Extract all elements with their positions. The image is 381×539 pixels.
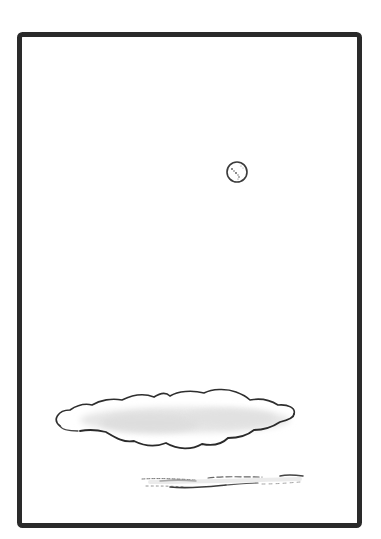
artwork-canvas: Minimalist ink drawing of a moon over a … [0, 0, 381, 539]
picture-frame [20, 35, 360, 526]
cloud-shape [56, 389, 294, 448]
artwork-svg [0, 0, 381, 539]
mist-lines [142, 475, 303, 488]
moon-icon [227, 162, 247, 182]
